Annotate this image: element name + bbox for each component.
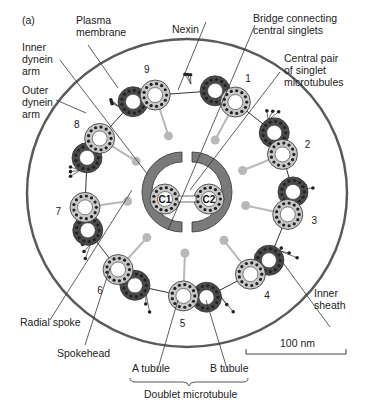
label-b-tubule: B tubule (210, 362, 249, 374)
doublet-number: 2 (305, 139, 311, 150)
central-bridge (178, 196, 196, 202)
doublet-number: 7 (55, 206, 61, 217)
label-nexin: Nexin (172, 23, 199, 35)
a-tubule (267, 139, 297, 169)
label-outer-dynein: Outer dynein arm (22, 84, 53, 120)
a-tubule (168, 281, 198, 311)
label-a-tubule: A tubule (132, 362, 170, 374)
label-radial-spoke: Radial spoke (20, 316, 81, 328)
doublet-5: 5 (140, 281, 221, 329)
doublet-number: 6 (97, 285, 103, 296)
doublet-number: 8 (74, 119, 80, 130)
label-central-pair: Central pair of singlet microtubules (284, 52, 344, 88)
a-tubule (140, 80, 170, 110)
doublet-8: 8 (72, 98, 120, 173)
doublet-number: 3 (311, 215, 317, 226)
label-bridge: Bridge connecting central singlets (253, 12, 337, 36)
doublet-1: 1 (200, 73, 280, 120)
doublet-number: 4 (264, 290, 270, 301)
panel-label: (a) (22, 14, 35, 26)
doublet-number: 9 (144, 64, 150, 75)
scale-bar-label: 100 nm (280, 337, 315, 349)
svg-text:C2: C2 (203, 194, 216, 205)
label-inner-dynein: Inner dynein arm (22, 41, 53, 77)
label-inner-sheath: Inner sheath (314, 287, 346, 311)
doublet-6: 6 (81, 243, 150, 301)
doublet-number: 1 (245, 73, 251, 84)
doublet-brace (130, 378, 248, 386)
scale-bar (246, 349, 346, 354)
svg-text:C1: C1 (159, 194, 172, 205)
central-pair: C1C2 (142, 152, 232, 232)
a-tubule (235, 259, 265, 289)
label-spokehead: Spokehead (57, 347, 110, 359)
label-doublet-microtubule: Doublet microtubule (144, 388, 237, 400)
a-tubule (103, 255, 133, 285)
doublet-7: 7 (55, 165, 102, 245)
label-plasma-membrane: Plasma membrane (76, 14, 126, 38)
doublet-number: 5 (180, 318, 186, 329)
doublet-9: 9 (118, 64, 192, 116)
doublet-3: 3 (273, 177, 318, 260)
a-tubule (85, 123, 115, 153)
a-tubule (220, 87, 250, 117)
a-tubule (70, 192, 100, 222)
doublet-4: 4 (218, 245, 283, 313)
a-tubule (273, 199, 303, 229)
